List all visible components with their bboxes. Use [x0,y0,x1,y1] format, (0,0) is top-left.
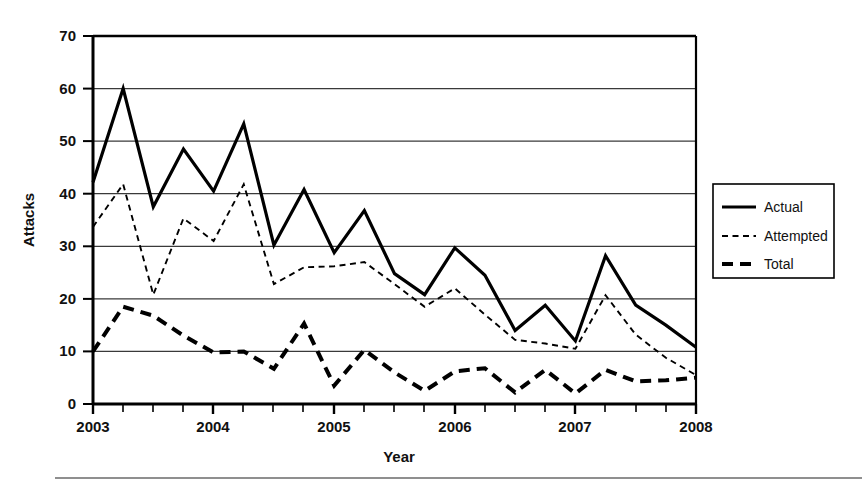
y-tick-label-0: 0 [68,395,76,412]
y-tick-label-50: 50 [59,132,76,149]
y-tick-label-30: 30 [59,237,76,254]
legend-label-total: Total [764,256,794,272]
x-tick-label-2003: 2003 [76,418,109,435]
y-tick-label-60: 60 [59,80,76,97]
x-tick-label-2007: 2007 [558,418,591,435]
x-tick-label-2005: 2005 [317,418,350,435]
y-tick-label-70: 70 [59,27,76,44]
x-axis-title: Year [383,448,415,465]
y-tick-label-40: 40 [59,185,76,202]
y-tick-label-20: 20 [59,290,76,307]
y-tick-label-10: 10 [59,342,76,359]
chart-legend: Actual Attempted Total [713,184,834,278]
line-chart-svg: 70 60 50 40 30 20 10 0 [0,0,866,491]
legend-label-actual: Actual [764,199,803,215]
y-axis-title: Attacks [20,193,37,247]
x-tick-label-2008: 2008 [679,418,712,435]
x-tick-label-2004: 2004 [196,418,230,435]
x-tick-label-2006: 2006 [438,418,471,435]
legend-label-attempted: Attempted [764,228,828,244]
chart-figure: 70 60 50 40 30 20 10 0 [0,0,866,491]
